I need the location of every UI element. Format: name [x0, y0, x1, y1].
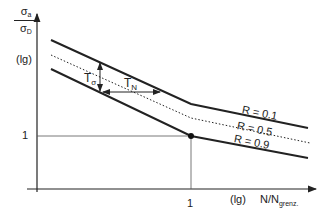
t-sigma-sub: σ: [91, 78, 96, 87]
y-label-denominator: σ: [20, 22, 27, 34]
reference-point: [188, 133, 194, 139]
y-label-denominator-sub: D: [27, 28, 32, 35]
diagram-canvas: [0, 0, 334, 214]
y-label-numerator-sub: a: [27, 11, 31, 18]
y-tick-1: 1: [22, 130, 28, 141]
x-label-main: N/N: [260, 193, 279, 205]
t-n-label: TN: [124, 77, 137, 92]
x-label-sub: grenz.: [279, 200, 298, 207]
x-axis-scale: (lg): [230, 194, 246, 205]
y-axis-scale: (lg): [16, 54, 32, 65]
y-axis-label: σa σD: [14, 6, 38, 35]
x-axis-label: N/Ngrenz.: [260, 194, 298, 207]
x-tick-1: 1: [187, 198, 193, 209]
t-sigma-label: Tσ: [84, 72, 96, 87]
t-n-sub: N: [131, 83, 137, 92]
